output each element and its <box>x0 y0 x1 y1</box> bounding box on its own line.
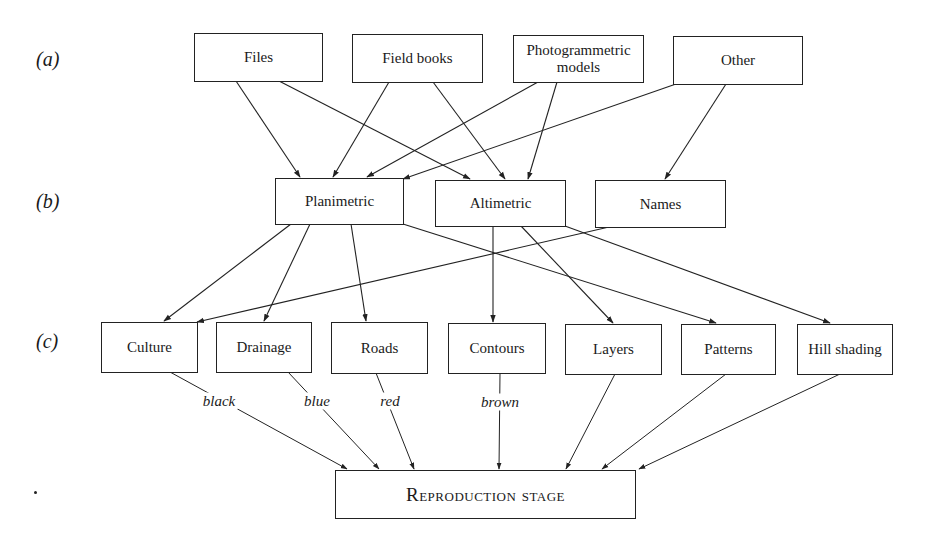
edge-files-planimetric <box>236 81 300 177</box>
layer-label: Drainage <box>237 339 292 356</box>
edge-other-names <box>665 84 726 179</box>
category-box-names: Names <box>595 180 726 228</box>
ink-color-red: red <box>377 393 402 410</box>
layer-box-contours: Contours <box>448 323 546 374</box>
edge-names-culture <box>197 227 609 322</box>
edge-planimetric-drainage <box>264 224 310 321</box>
source-box-field-books: Field books <box>352 34 483 83</box>
ink-color-blue: blue <box>301 393 333 410</box>
row-label-c: (c) <box>36 330 58 353</box>
edge-altimetric-layers <box>521 226 613 323</box>
category-box-altimetric: Altimetric <box>435 180 566 227</box>
edge-photogrammetric-planimetric <box>367 82 538 177</box>
layer-box-drainage: Drainage <box>216 322 312 373</box>
row-label-a: (a) <box>36 48 59 71</box>
edge-planimetric-culture <box>164 224 291 321</box>
row-label-b: (b) <box>36 190 59 213</box>
edge-hillshading-reproduction <box>639 374 840 469</box>
edge-files-altimetric <box>279 81 470 179</box>
layer-label: Roads <box>361 340 399 357</box>
edge-planimetric-roads <box>351 224 366 321</box>
layer-box-hill-shading: Hill shading <box>797 324 893 375</box>
source-box-files: Files <box>194 33 323 82</box>
source-box-photogrammetric-models: Photogrammetric models <box>513 35 644 83</box>
edge-contours-reproduction <box>499 373 500 469</box>
edge-layers-reproduction <box>566 374 615 469</box>
layer-box-layers: Layers <box>565 324 662 375</box>
stray-mark <box>34 491 37 494</box>
layer-label: Layers <box>593 341 634 358</box>
source-label: Other <box>721 52 755 69</box>
edge-fieldbooks-planimetric <box>333 82 389 177</box>
layer-label: Culture <box>127 339 172 356</box>
layer-box-patterns: Patterns <box>681 324 776 375</box>
ink-color-brown: brown <box>478 394 522 411</box>
layer-label: Contours <box>469 340 524 357</box>
edge-roads-reproduction <box>376 373 414 469</box>
edge-other-planimetric <box>403 84 676 179</box>
category-label: Names <box>640 196 682 213</box>
edge-altimetric-hillshading <box>565 226 830 323</box>
edge-culture-reproduction <box>170 372 347 469</box>
output-box-reproduction-stage: Reproduction stage <box>335 470 636 519</box>
category-box-planimetric: Planimetric <box>275 178 404 225</box>
layer-label: Hill shading <box>808 341 882 358</box>
layer-box-roads: Roads <box>331 322 428 374</box>
output-label: Reproduction stage <box>406 486 565 503</box>
category-label: Planimetric <box>305 193 374 210</box>
layer-box-culture: Culture <box>101 322 198 373</box>
ink-color-black: black <box>200 393 238 410</box>
source-label: Photogrammetric models <box>516 42 641 76</box>
source-label: Files <box>244 49 273 66</box>
source-label: Field books <box>382 50 452 67</box>
source-box-other: Other <box>673 36 803 85</box>
edge-patterns-reproduction <box>602 374 726 469</box>
category-label: Altimetric <box>470 195 532 212</box>
edge-drainage-reproduction <box>288 372 379 469</box>
layer-label: Patterns <box>704 341 752 358</box>
